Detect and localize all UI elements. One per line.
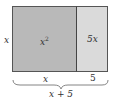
total-width-label: x + 5 bbox=[49, 90, 73, 99]
brace-icon bbox=[0, 0, 116, 102]
